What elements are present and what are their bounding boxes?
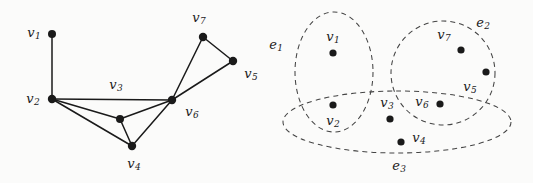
hypergraph-vertex-label-v7: v7 [437,27,450,43]
hypergraph-vertex-label-v1: v1 [326,29,339,45]
graph-edge-label-v3: v3 [109,77,122,93]
graph-node-v2 [48,95,56,103]
graph-node-v6 [168,96,176,104]
hypergraph-node-v4 [397,138,404,145]
hypergraph-vertex-label-v6: v6 [415,94,428,110]
hypergraph-node-v3 [386,115,393,122]
hypergraph-node-group [329,46,489,145]
graph-node-v3node [116,115,124,123]
hyperedge-label-e1: e1 [269,37,283,53]
hyperedge-boundary-e3 [283,91,511,153]
graph-node-group [48,30,237,150]
graph-node-v7 [199,33,207,41]
graph-node-v4 [128,142,136,150]
graph-vertex-label-v6: v6 [185,104,198,120]
hypergraph-vertex-label-v2: v2 [326,113,339,129]
hyperedge-label-e2: e2 [476,15,490,31]
hyperedge-curve-group [283,12,511,153]
graph-vertex-label-v1: v1 [27,25,40,41]
graph-vertex-label-v4: v4 [127,156,140,172]
diagram-canvas [0,0,533,183]
hypergraph-node-v6 [436,100,443,107]
hypergraph-vertex-label-v4: v4 [412,130,425,146]
graph-edge-v2-v3node [52,99,120,119]
hypergraph-node-v7 [457,46,464,53]
figure-container: v1v2v4v5v6v7v3v1v2v3v4v5v6v7e1e2e3 [0,0,533,183]
graph-edge-v2-v6 [52,99,172,100]
graph-edge-v7-v5 [203,37,233,61]
graph-vertex-label-v5: v5 [244,66,257,82]
graph-node-v5 [229,57,237,65]
graph-vertex-label-v2: v2 [26,91,39,107]
graph-edge-group [52,34,233,146]
hypergraph-node-v1 [329,49,336,56]
hypergraph-vertex-label-v3: v3 [380,95,393,111]
hypergraph-node-v5 [482,68,489,75]
graph-vertex-label-v7: v7 [192,10,205,26]
hypergraph-node-v2 [329,101,336,108]
hypergraph-vertex-label-v5: v5 [463,79,476,95]
graph-node-v1 [48,30,56,38]
hyperedge-label-e3: e3 [392,158,406,174]
